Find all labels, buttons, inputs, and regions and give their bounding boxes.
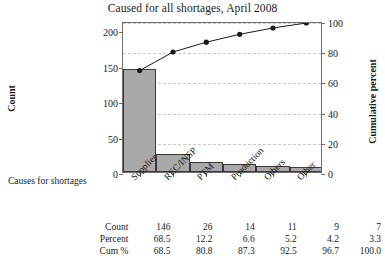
y-axis-right-tick-label: 40	[321, 108, 381, 119]
y-axis-left-tick-label: 150	[63, 62, 123, 73]
y-axis-right-tick-mark	[321, 174, 325, 175]
cumulative-marker	[270, 25, 275, 30]
y-axis-left-tick-label: 0	[63, 169, 123, 180]
y-axis-right-tick-mark	[321, 53, 325, 54]
table-row-label: Percent	[0, 234, 132, 246]
table-cell: 68.5	[132, 234, 174, 246]
table-row: Cum %68.580.887.392.596.7100.0	[0, 246, 385, 258]
y-axis-left-tick-mark	[119, 139, 123, 140]
cumulative-marker	[204, 40, 209, 45]
y-axis-left-tick-mark	[119, 174, 123, 175]
y-axis-left-tick-label: 100	[63, 98, 123, 109]
y-axis-left-tick-label: 50	[63, 133, 123, 144]
table-row: Percent68.512.26.65.24.23.3	[0, 234, 385, 246]
y-axis-right-tick-label: 80	[321, 48, 381, 59]
y-axis-left-tick-mark	[119, 103, 123, 104]
y-axis-right-tick-mark	[321, 144, 325, 145]
table-cell: 14	[217, 222, 259, 234]
table-row: Count14626141197	[0, 222, 385, 234]
cumulative-line-series	[123, 23, 321, 172]
y-axis-right-tick-label: 0	[321, 169, 381, 180]
chart-title: Caused for all shortages, April 2008	[0, 2, 385, 14]
table-cell: 100.0	[343, 246, 385, 258]
plot-inner	[123, 23, 321, 172]
cumulative-marker	[137, 68, 142, 73]
table-cell: 12.2	[174, 234, 216, 246]
plot-area: 050100150200 020406080100	[122, 22, 322, 173]
y-axis-left-title: Count	[6, 69, 17, 129]
y-axis-right-tick-mark	[321, 23, 325, 24]
table-cell: 96.7	[301, 246, 343, 258]
table-cell: 6.6	[217, 234, 259, 246]
y-axis-right-tick-label: 60	[321, 78, 381, 89]
table-cell: 26	[174, 222, 216, 234]
table-row-label: Count	[0, 222, 132, 234]
y-axis-right-tick-label: 100	[321, 18, 381, 29]
y-axis-right-tick-label: 20	[321, 138, 381, 149]
table-row-label: Cum %	[0, 246, 132, 258]
table-cell: 7	[343, 222, 385, 234]
table-cell: 68.5	[132, 246, 174, 258]
cumulative-line	[140, 23, 307, 71]
data-table: Count14626141197Percent68.512.26.65.24.2…	[0, 222, 385, 258]
table-cell: 3.3	[343, 234, 385, 246]
table-cell: 80.8	[174, 246, 216, 258]
cumulative-marker	[237, 32, 242, 37]
y-axis-right-tick-mark	[321, 83, 325, 84]
table-cell: 5.2	[259, 234, 301, 246]
table-cell: 9	[301, 222, 343, 234]
pareto-chart-figure: Caused for all shortages, April 2008 Cou…	[0, 0, 385, 273]
cumulative-marker	[170, 49, 175, 54]
data-table-body: Count14626141197Percent68.512.26.65.24.2…	[0, 222, 385, 258]
table-cell: 92.5	[259, 246, 301, 258]
table-cell: 4.2	[301, 234, 343, 246]
cumulative-marker	[304, 23, 309, 26]
y-axis-left-tick-label: 200	[63, 27, 123, 38]
y-axis-left-tick-mark	[119, 32, 123, 33]
y-axis-right-tick-mark	[321, 114, 325, 115]
table-cell: 146	[132, 222, 174, 234]
table-cell: 11	[259, 222, 301, 234]
table-cell: 87.3	[217, 246, 259, 258]
y-axis-left-tick-mark	[119, 68, 123, 69]
